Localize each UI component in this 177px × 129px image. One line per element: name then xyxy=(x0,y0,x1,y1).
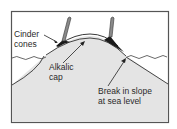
label-break-in-slope-line2: at sea level xyxy=(98,97,152,107)
label-cinder-cones: Cinder cones xyxy=(14,30,39,49)
label-break-in-slope: Break in slope at sea level xyxy=(98,87,152,106)
label-alkalic-cap: Alkalic cap xyxy=(49,63,74,82)
label-cinder-cones-line2: cones xyxy=(14,40,39,50)
volcanic-island-diagram xyxy=(0,0,177,129)
label-alkalic-cap-line2: cap xyxy=(49,73,74,83)
